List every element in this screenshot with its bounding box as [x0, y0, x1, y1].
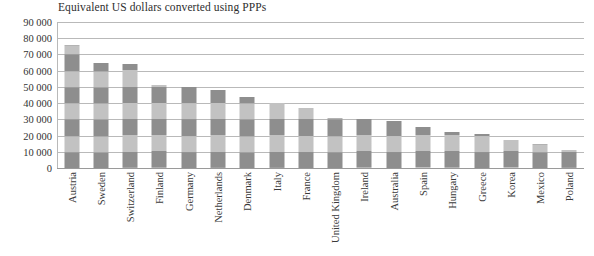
chart-title: Equivalent US dollars converted using PP…	[58, 1, 266, 13]
bar-slot	[174, 22, 203, 168]
y-axis-tick-label: 80 000	[23, 33, 52, 44]
bar-series	[57, 22, 584, 168]
bar	[533, 144, 548, 168]
bar	[123, 64, 138, 168]
x-axis-category-label: Denmark	[242, 172, 253, 211]
x-axis-category-label: Germany	[183, 172, 194, 211]
bar-slot	[350, 22, 379, 168]
x-axis-label-slot: Hungary	[438, 170, 467, 256]
x-axis-label-slot: Mexico	[525, 170, 554, 256]
x-axis-label-slot: Australia	[379, 170, 408, 256]
y-axis-tick-label: 20 000	[23, 130, 52, 141]
bar-slot	[86, 22, 115, 168]
x-axis-label-slot: Finland	[145, 170, 174, 256]
bar	[328, 118, 343, 168]
x-axis-category-label: Italy	[271, 172, 282, 191]
bar-slot	[262, 22, 291, 168]
x-axis-label-slot: United Kingdom	[321, 170, 350, 256]
x-axis-label-slot: Germany	[174, 170, 203, 256]
y-axis-tick-label: 60 000	[23, 65, 52, 76]
x-axis-category-label: Netherlands	[213, 172, 224, 223]
x-axis-label-slot: Italy	[262, 170, 291, 256]
x-axis-category-label: Hungary	[447, 172, 458, 209]
x-axis-category-label: Greece	[476, 172, 487, 202]
x-axis-category-label: Austria	[66, 172, 77, 203]
x-axis-label-slot: Switzerland	[116, 170, 145, 256]
bar	[562, 150, 577, 168]
y-axis-tick-label: 70 000	[23, 49, 52, 60]
bar-slot	[379, 22, 408, 168]
bar-slot	[291, 22, 320, 168]
x-axis-label-slot: France	[291, 170, 320, 256]
bar-slot	[408, 22, 437, 168]
x-axis-label-slot: Austria	[57, 170, 86, 256]
x-axis-label-slot: Korea	[496, 170, 525, 256]
bar-slot	[555, 22, 584, 168]
bar-slot	[321, 22, 350, 168]
y-axis-tick-label: 30 000	[23, 114, 52, 125]
bar	[415, 127, 430, 168]
y-axis-tick-label: 0	[47, 163, 52, 174]
bar	[181, 87, 196, 168]
bar-slot	[438, 22, 467, 168]
bar	[445, 132, 460, 168]
x-axis-category-label: Australia	[388, 172, 399, 211]
y-axis-tick-label: 90 000	[23, 17, 52, 28]
bar	[386, 121, 401, 168]
gridline	[57, 168, 584, 169]
x-axis-category-label: Mexico	[535, 172, 546, 204]
bar	[93, 63, 108, 168]
plot-area	[57, 22, 584, 168]
x-axis-category-label: Korea	[505, 172, 516, 198]
x-axis-category-label: Switzerland	[125, 172, 136, 222]
bar-slot	[203, 22, 232, 168]
bar	[152, 85, 167, 168]
x-axis-category-label: United Kingdom	[330, 172, 341, 243]
bar	[240, 97, 255, 168]
x-axis-category-labels: AustriaSwedenSwitzerlandFinlandGermanyNe…	[57, 170, 584, 256]
bar-slot	[496, 22, 525, 168]
bar	[357, 119, 372, 168]
y-axis-tick-labels: 90 00080 00070 00060 00050 00040 00030 0…	[0, 22, 52, 168]
bar-slot	[467, 22, 496, 168]
bar-slot	[116, 22, 145, 168]
x-axis-label-slot: Poland	[555, 170, 584, 256]
x-axis-label-slot: Denmark	[233, 170, 262, 256]
bar	[211, 90, 226, 168]
x-axis-label-slot: Netherlands	[203, 170, 232, 256]
y-axis-tick-label: 10 000	[23, 146, 52, 157]
x-axis-category-label: Ireland	[359, 172, 370, 202]
bar	[269, 103, 284, 168]
x-axis-label-slot: Greece	[467, 170, 496, 256]
x-axis-category-label: Spain	[417, 172, 428, 196]
x-axis-label-slot: Sweden	[86, 170, 115, 256]
bar	[298, 108, 313, 168]
bar-slot	[145, 22, 174, 168]
bar	[474, 134, 489, 168]
bar-slot	[525, 22, 554, 168]
x-axis-category-label: Finland	[154, 172, 165, 204]
x-axis-label-slot: Ireland	[350, 170, 379, 256]
y-axis-tick-label: 40 000	[23, 98, 52, 109]
x-axis-category-label: Poland	[564, 172, 575, 201]
bar-slot	[233, 22, 262, 168]
bar	[64, 45, 79, 168]
bar-slot	[57, 22, 86, 168]
bar	[503, 140, 518, 168]
x-axis-category-label: France	[300, 172, 311, 201]
x-axis-label-slot: Spain	[408, 170, 437, 256]
bar-chart: Equivalent US dollars converted using PP…	[0, 0, 594, 256]
x-axis-category-label: Sweden	[95, 172, 106, 205]
y-axis-tick-label: 50 000	[23, 81, 52, 92]
